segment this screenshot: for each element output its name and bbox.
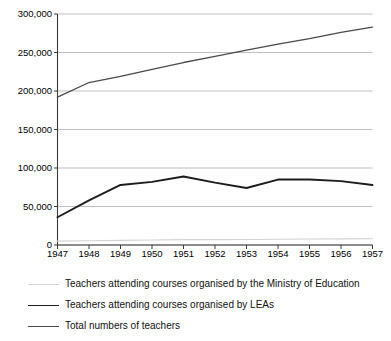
- legend-item-label: Teachers attending courses organised by …: [65, 278, 360, 290]
- x-axis-tick-label: 1947: [47, 248, 68, 259]
- y-axis-labels: 050,000100,000150,000200,000250,000300,0…: [0, 0, 52, 272]
- x-axis-tick-label: 1955: [299, 248, 320, 259]
- legend-item: Teachers attending courses organised by …: [28, 295, 274, 315]
- y-axis-tick-label: 150,000: [0, 125, 52, 135]
- series-line-0: [58, 239, 373, 241]
- y-axis-tick-label: 200,000: [0, 86, 52, 96]
- chart-legend: Teachers attending courses organised by …: [0, 274, 391, 341]
- chart-container: 050,000100,000150,000200,000250,000300,0…: [0, 0, 391, 341]
- legend-line-swatch: [28, 321, 59, 331]
- x-axis-tick-label: 1952: [204, 248, 225, 259]
- x-axis-tick-label: 1951: [173, 248, 194, 259]
- x-axis-tick-label: 1957: [362, 248, 383, 259]
- y-axis-tick-label: 50,000: [0, 202, 52, 212]
- x-axis-tick-label: 1950: [141, 248, 162, 259]
- plot-svg: [0, 0, 391, 272]
- legend-item: Teachers attending courses organised by …: [28, 274, 360, 294]
- x-axis-labels: 1947194819491950195119521953195419551956…: [0, 248, 391, 266]
- x-axis-tick-label: 1949: [110, 248, 131, 259]
- x-axis-tick-label: 1948: [78, 248, 99, 259]
- y-axis-tick-label: 300,000: [0, 9, 52, 19]
- y-axis-tick-label: 100,000: [0, 163, 52, 173]
- legend-item-label: Teachers attending courses organised by …: [65, 299, 274, 311]
- legend-item: Total numbers of teachers: [28, 316, 180, 336]
- x-axis-tick-label: 1956: [330, 248, 351, 259]
- y-axis-tick-label: 250,000: [0, 48, 52, 58]
- x-axis-tick-label: 1953: [236, 248, 257, 259]
- legend-line-swatch: [28, 300, 59, 310]
- series-line-1: [58, 176, 373, 217]
- plot-figure: 050,000100,000150,000200,000250,000300,0…: [0, 0, 391, 272]
- gridlines: [58, 14, 373, 245]
- data-series-group: [58, 27, 373, 241]
- x-axis-tick-label: 1954: [267, 248, 288, 259]
- legend-line-swatch: [28, 279, 59, 289]
- series-line-2: [58, 27, 373, 97]
- legend-item-label: Total numbers of teachers: [65, 320, 180, 332]
